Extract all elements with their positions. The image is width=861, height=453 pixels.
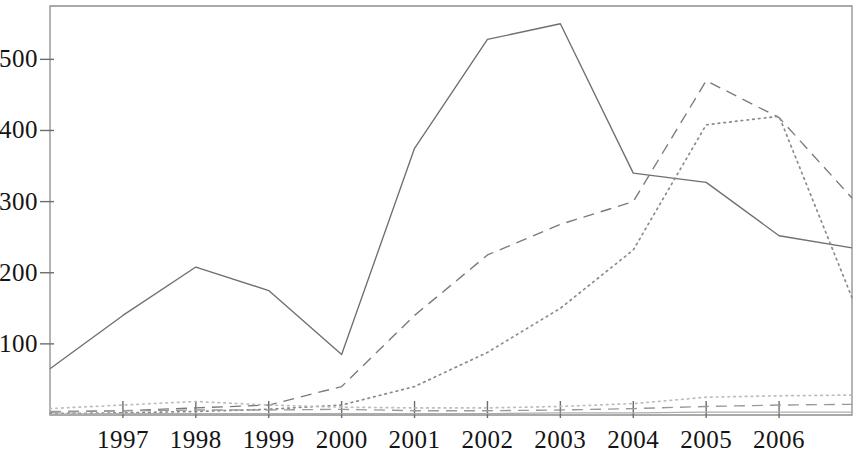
- y-axis-tick-label: 100: [0, 331, 38, 356]
- y-axis-tick-label: 500: [0, 46, 38, 71]
- y-axis-ticks: [40, 59, 54, 344]
- series-line-series-3: [50, 116, 852, 413]
- y-axis-tick-label: 300: [0, 189, 38, 214]
- x-axis-tick-label: 2006: [734, 427, 824, 452]
- series-line-series-1: [50, 24, 852, 369]
- chart-plot-area: [0, 0, 861, 453]
- series-line-series-4: [50, 395, 852, 409]
- series-line-series-2: [50, 81, 852, 412]
- data-series-group: [50, 24, 852, 415]
- series-line-series-6: [50, 412, 852, 414]
- plot-frame: [50, 6, 852, 415]
- y-axis-tick-label: 400: [0, 117, 38, 142]
- line-chart: 100200300400500 199719981999200020012002…: [0, 0, 861, 453]
- y-axis-tick-label: 200: [0, 260, 38, 285]
